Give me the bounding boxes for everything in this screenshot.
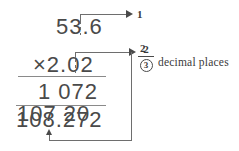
connector-line-one-vertical xyxy=(80,14,81,22)
addition-rule xyxy=(16,105,106,106)
decimal-place-sum-addend: 2 xyxy=(138,43,154,55)
decimal-places-caption: decimal places xyxy=(158,57,229,69)
decimal-place-sum-bar xyxy=(138,56,154,57)
decimal-count-tag-one: 1 xyxy=(137,9,143,20)
partial-product-one: 1 072 xyxy=(38,81,98,103)
connector-rail-vertical xyxy=(131,52,132,141)
product-total: 108.272 xyxy=(16,109,103,131)
decimal-place-sum-total: 3 xyxy=(138,58,154,72)
connector-line-two-horizontal xyxy=(75,52,131,53)
multiplication-rule xyxy=(18,76,106,77)
connector-line-one-horizontal xyxy=(80,14,128,15)
decimal-multiplication-diagram: 53.6 1 ×2.02 2 2 3 decimal places 1 072 … xyxy=(0,0,239,151)
connector-arrow-bottom xyxy=(46,129,52,135)
connector-bottom-horizontal xyxy=(49,140,132,141)
connector-arrow-one xyxy=(126,10,133,18)
decimal-place-sum: 2 3 xyxy=(138,43,154,72)
circled-three: 3 xyxy=(140,59,153,72)
multiplier-value: ×2.02 xyxy=(33,54,94,76)
